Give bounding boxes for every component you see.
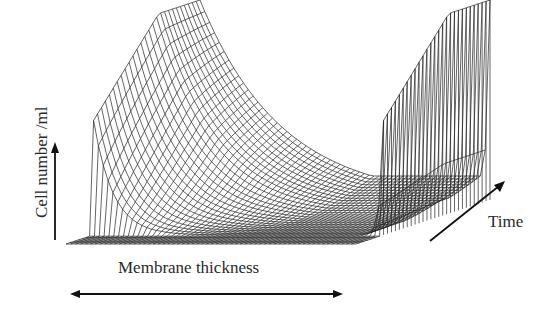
arrowhead-diagonal-icon — [494, 181, 505, 192]
arrowhead-left-icon — [70, 290, 80, 298]
time-axis-label: Time — [488, 212, 523, 232]
surface-plot — [0, 0, 545, 319]
y-axis-label: Cell number /ml — [32, 107, 52, 218]
arrowhead-up-icon — [51, 142, 59, 153]
x-axis-label: Membrane thickness — [118, 258, 259, 278]
y-axis-arrow — [51, 142, 59, 240]
wireframe-mesh — [66, 0, 490, 244]
x-axis-arrow — [70, 290, 343, 298]
arrowhead-right-icon — [333, 290, 343, 298]
